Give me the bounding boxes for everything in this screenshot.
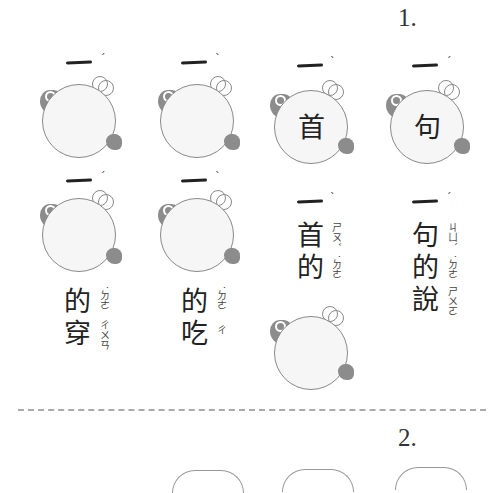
phrase-char: 的 xyxy=(297,252,324,284)
tone-mark: ˋ xyxy=(330,55,336,68)
phrase-char: 句 xyxy=(412,220,439,252)
bubble-answer-slot[interactable]: 句 xyxy=(386,84,476,172)
tone-mark: ˋ xyxy=(330,191,336,204)
zhuyin: ˙ㄉㄜ xyxy=(446,254,457,279)
yi-stroke xyxy=(181,61,207,65)
bug-tail-icon xyxy=(338,138,354,154)
zhuyin: ˙ㄉㄜ xyxy=(330,254,341,279)
tone-mark: ˊ xyxy=(100,170,106,183)
section-divider xyxy=(18,409,486,411)
yi-stroke xyxy=(66,179,92,183)
bubble xyxy=(160,84,234,158)
bubble-answer-slot[interactable] xyxy=(156,78,246,166)
zhuyin: ˙ㄉㄜ xyxy=(98,285,109,310)
tone-mark: ˋ xyxy=(215,52,221,65)
zhuyin: ˙ㄉㄜ xyxy=(215,285,226,310)
yi-stroke xyxy=(412,64,438,68)
bubble-character: 句 xyxy=(414,112,441,144)
cloud-outline xyxy=(282,469,354,492)
phrase-char: 穿 xyxy=(64,318,91,350)
zhuyin: ㄐㄩˋ xyxy=(446,222,457,247)
bubble-answer-slot[interactable] xyxy=(156,192,246,280)
yi-stroke xyxy=(66,61,92,65)
phrase-char: 的 xyxy=(181,286,208,318)
yi-stroke xyxy=(297,200,323,204)
tone-mark: ˊ xyxy=(446,191,452,204)
bubble xyxy=(160,198,234,272)
phrase-char: 說 xyxy=(412,284,439,316)
bug-tail-icon xyxy=(224,248,240,264)
bug-tail-icon xyxy=(106,248,122,264)
bug-tail-icon xyxy=(454,138,470,154)
phrase-char: 的 xyxy=(64,286,91,318)
bubble-character: 首 xyxy=(298,112,325,144)
tone-mark: ˊ xyxy=(446,55,452,68)
bubble-answer-slot[interactable] xyxy=(38,78,128,166)
cloud-outline xyxy=(395,467,467,490)
cloud-outline xyxy=(172,470,244,493)
bug-tail-icon xyxy=(106,134,122,150)
yi-stroke xyxy=(297,64,323,68)
bug-tail-icon xyxy=(338,364,354,380)
question-number-2: 2. xyxy=(398,424,417,452)
yi-stroke xyxy=(181,179,207,183)
bubble-answer-slot[interactable] xyxy=(270,310,360,398)
yi-stroke xyxy=(412,200,438,204)
bubble xyxy=(42,198,116,272)
zhuyin: ㄔㄨㄢ xyxy=(98,320,109,350)
zhuyin: ㄕㄡˇ xyxy=(330,222,341,247)
bubble-answer-slot[interactable]: 首 xyxy=(270,84,360,172)
bubble-answer-slot[interactable] xyxy=(38,192,128,280)
phrase-char: 的 xyxy=(412,252,439,284)
bubble xyxy=(42,84,116,158)
question-number-1: 1. xyxy=(398,4,417,32)
tone-mark: ˊ xyxy=(100,52,106,65)
zhuyin: ㄔ xyxy=(215,325,226,335)
phrase-char: 吃 xyxy=(181,318,208,350)
bug-tail-icon xyxy=(224,134,240,150)
zhuyin: ㄕㄨㄛ xyxy=(446,286,457,316)
phrase-char: 首 xyxy=(297,220,324,252)
bubble xyxy=(274,316,348,390)
tone-mark: ˋ xyxy=(215,170,221,183)
